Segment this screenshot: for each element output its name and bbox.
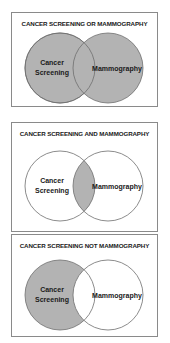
left-label-line2: Screening — [35, 187, 69, 195]
left-label-line1: Cancer — [40, 59, 64, 66]
left-label-line1: Cancer — [40, 286, 64, 293]
left-label-line2: Screening — [35, 296, 69, 304]
venn-diagram-and: Cancer Screening Mammography — [12, 123, 159, 233]
venn-diagram-or: Cancer Screening Mammography — [12, 13, 159, 108]
venn-panel-and: CANCER SCREENING AND MAMMOGRAPHY Cancer … — [11, 122, 158, 232]
left-label-line2: Screening — [35, 69, 69, 77]
venn-panel-or: CANCER SCREENING OR MAMMOGRAPHY Cancer S… — [11, 12, 158, 107]
venn-panel-not: CANCER SCREENING NOT MAMMOGRAPHY Cancer … — [11, 234, 158, 337]
venn-diagram-not: Cancer Screening Mammography — [12, 235, 159, 338]
right-label: Mammography — [92, 183, 142, 191]
right-label: Mammography — [92, 65, 142, 73]
left-label-line1: Cancer — [40, 177, 64, 184]
right-label: Mammography — [92, 292, 142, 300]
